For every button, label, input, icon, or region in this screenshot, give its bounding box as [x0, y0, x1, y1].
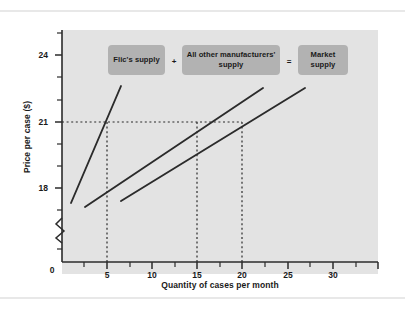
callout-market-supply: Market supply [298, 45, 348, 75]
x-tick-label-15: 15 [189, 270, 205, 280]
x-tick-label-5: 5 [99, 270, 115, 280]
x-tick-label-30: 30 [325, 270, 341, 280]
y-axis-title: Price per case ($) [22, 82, 32, 192]
curve-market-supply [121, 88, 305, 201]
x-tick-label-10: 10 [144, 270, 160, 280]
page-rule-bottom [0, 297, 405, 299]
operator-plus: + [168, 57, 180, 66]
y-tick-label-24: 24 [26, 50, 48, 60]
supply-curve-figure: 24 21 18 0 5 10 15 20 25 30 Price per ca… [0, 12, 405, 296]
x-major-ticks [107, 262, 378, 269]
page-canvas: 24 21 18 0 5 10 15 20 25 30 Price per ca… [0, 0, 405, 313]
curve-flics-supply [71, 86, 121, 203]
x-tick-label-25: 25 [280, 270, 296, 280]
y-major-ticks [55, 55, 62, 188]
callout-other-manufacturers-supply: All other manufacturers' supply [182, 45, 280, 75]
x-tick-label-20: 20 [234, 270, 250, 280]
x-axis-title: Quantity of cases per month [62, 280, 378, 290]
callout-flics-supply: Flic's supply [108, 45, 165, 75]
operator-equals: = [283, 57, 295, 66]
y-origin-label: 0 [46, 265, 58, 275]
